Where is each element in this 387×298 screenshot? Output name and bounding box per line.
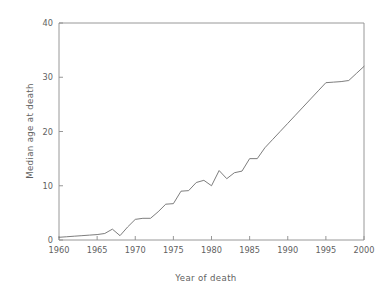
y-tick-label: 30	[43, 72, 53, 82]
x-tick-label: 1970	[125, 245, 146, 255]
x-tick-label: 1980	[201, 245, 222, 255]
line-chart: 010203040 196019651970197519801985199019…	[0, 0, 387, 298]
y-tick-label: 40	[43, 18, 53, 28]
x-tick-label: 1995	[315, 245, 336, 255]
x-axis-ticks	[59, 236, 364, 240]
x-tick-label: 1965	[87, 245, 108, 255]
x-tick-label: 1985	[239, 245, 260, 255]
x-axis-tick-labels: 196019651970197519801985199019952000	[49, 245, 375, 255]
y-tick-label: 20	[43, 127, 53, 137]
y-axis-ticks	[59, 23, 63, 240]
y-tick-label: 10	[43, 181, 53, 191]
x-tick-label: 1975	[163, 245, 184, 255]
y-axis-tick-labels: 010203040	[43, 18, 53, 245]
plot-frame	[59, 23, 364, 240]
data-series-line	[59, 66, 364, 237]
x-tick-label: 1960	[49, 245, 70, 255]
chart-canvas: 010203040 196019651970197519801985199019…	[0, 0, 387, 298]
x-tick-label: 2000	[354, 245, 375, 255]
y-tick-label: 0	[48, 235, 53, 245]
y-axis-title: Median age at death	[25, 83, 35, 179]
x-axis-title: Year of death	[174, 273, 236, 283]
x-tick-label: 1990	[277, 245, 298, 255]
